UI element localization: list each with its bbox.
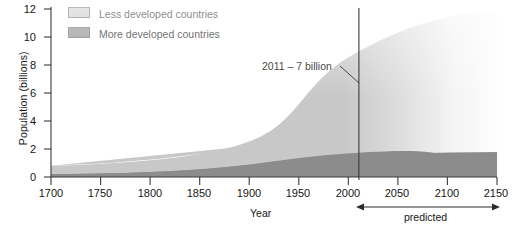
predicted-range-arrow [356, 204, 500, 211]
stacked-areas [51, 4, 497, 177]
